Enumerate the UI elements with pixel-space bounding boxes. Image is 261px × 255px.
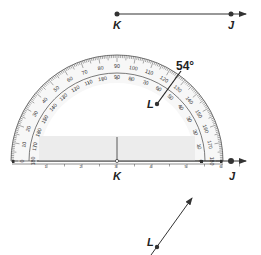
point-k-top bbox=[115, 12, 120, 17]
point-l-protractor bbox=[155, 102, 159, 106]
scale-label: 80 bbox=[128, 75, 135, 82]
scale-label: 10 bbox=[20, 141, 27, 148]
point-j-protractor bbox=[228, 158, 234, 164]
diagram-canvas: K J 010203040506070809010011012013014015… bbox=[0, 0, 261, 255]
point-k-center bbox=[115, 159, 118, 162]
label-l-bottom: L bbox=[147, 236, 154, 248]
label-k-protractor: K bbox=[113, 170, 122, 182]
label-j-top: J bbox=[228, 19, 235, 31]
scale-label: 90 bbox=[114, 74, 120, 80]
protractor: 0102030405060708090100110120130140150160… bbox=[11, 55, 240, 169]
label-k-top: K bbox=[113, 19, 122, 31]
top-ray: K J bbox=[113, 12, 246, 32]
angle-measure: 54° bbox=[176, 59, 194, 73]
scale-label: 10 bbox=[196, 143, 203, 150]
scale-label: 80 bbox=[97, 64, 104, 71]
point-j-top bbox=[229, 12, 234, 17]
diagram: K J 010203040506070809010011012013014015… bbox=[0, 0, 261, 255]
scale-label: 90 bbox=[114, 63, 120, 69]
point-l-bottom bbox=[155, 245, 159, 249]
label-j-protractor: J bbox=[229, 170, 236, 182]
scale-label: 0 bbox=[19, 159, 25, 162]
label-l-protractor: L bbox=[147, 98, 154, 110]
bottom-ray: L bbox=[147, 198, 192, 255]
